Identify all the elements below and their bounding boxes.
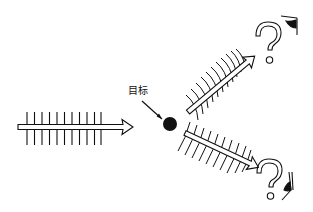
lower-question-mark-icon [257,159,282,199]
target-dot [163,117,177,131]
upper-scattered-arrow [184,51,260,118]
target-label: 目标 [128,85,148,97]
scattering-diagram [0,0,313,212]
incident-arrow [18,120,133,135]
upper-question-mark-icon [256,22,281,63]
lower-eye-icon [282,172,293,200]
upper-eye-icon [281,16,297,35]
